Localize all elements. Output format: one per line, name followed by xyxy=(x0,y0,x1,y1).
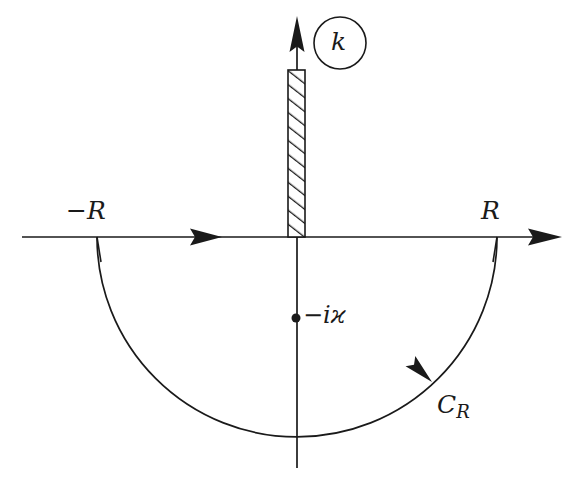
label-k-variable: k xyxy=(331,29,346,54)
label-plus-R: R xyxy=(481,198,500,223)
label-contour-base: C xyxy=(437,390,456,419)
contour-diagram: −R R −iϰ k CR xyxy=(0,0,582,481)
label-contour-subscript: R xyxy=(456,401,470,422)
real-axis-arrowhead xyxy=(528,229,562,246)
pole-point xyxy=(292,314,301,323)
label-pole-minus-i-kappa: −iϰ xyxy=(303,303,346,327)
pole-dot xyxy=(292,314,301,323)
contour-direction-arrowhead xyxy=(406,356,437,387)
label-minus-R: −R xyxy=(66,198,106,223)
diagram-canvas xyxy=(0,0,582,481)
label-contour-CR: CR xyxy=(437,392,470,421)
branch-cut-strip xyxy=(288,70,305,237)
branch-cut xyxy=(288,70,305,237)
